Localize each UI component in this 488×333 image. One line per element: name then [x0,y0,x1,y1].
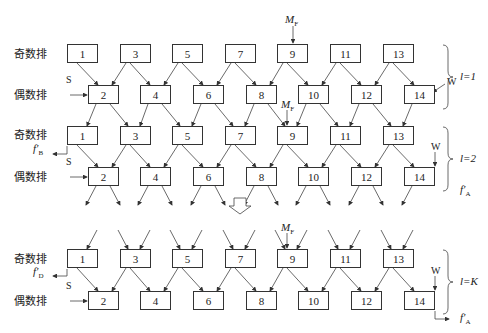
s-input-label: S [66,280,72,291]
even-tray-14: 14 [404,167,435,186]
even-row-label: 偶数排 [14,292,47,308]
even-tray-10: 10 [298,291,329,310]
even-tray-6: 6 [193,291,224,310]
stage-label: l=2 [460,152,476,164]
odd-tray-3: 3 [120,249,151,268]
mf-feed-label: MF [285,13,298,28]
even-tray-2: 2 [88,85,119,104]
even-tray-4: 4 [140,167,171,186]
fa-output-label: f′A [460,311,471,326]
even-tray-8: 8 [246,167,277,186]
odd-tray-13: 13 [383,249,414,268]
even-tray-4: 4 [140,291,171,310]
even-row-label: 偶数排 [14,86,47,102]
even-tray-12: 12 [351,291,382,310]
odd-tray-9: 9 [277,249,308,268]
even-tray-12: 12 [351,167,382,186]
even-tray-14: 14 [404,291,435,310]
odd-tray-5: 5 [172,44,203,63]
odd-tray-9: 9 [277,126,308,145]
even-tray-12: 12 [351,85,382,104]
odd-row-label: 奇数排 [14,45,47,61]
even-tray-2: 2 [88,291,119,310]
odd-tray-3: 3 [120,44,151,63]
odd-tray-7: 7 [225,126,256,145]
even-row-label: 偶数排 [14,168,47,184]
even-tray-14: 14 [404,85,435,104]
odd-tray-7: 7 [225,44,256,63]
odd-tray-1: 1 [67,126,98,145]
odd-tray-13: 13 [383,126,414,145]
odd-tray-11: 11 [330,126,361,145]
w-input-label: W [431,141,440,152]
even-tray-2: 2 [88,167,119,186]
odd-tray-11: 11 [330,44,361,63]
w-input-label: W [431,265,440,276]
odd-tray-7: 7 [225,249,256,268]
stage-label: l=K [460,275,478,287]
fa-output-label: f′A [460,183,471,198]
mf-feed-label: MF [281,98,294,113]
even-tray-6: 6 [193,167,224,186]
odd-row-label: 奇数排 [14,126,47,142]
mf-feed-label: MF [281,221,294,236]
odd-tray-5: 5 [172,249,203,268]
even-tray-8: 8 [246,291,277,310]
s-input-label: S [66,74,72,85]
odd-tray-3: 3 [120,126,151,145]
odd-tray-1: 1 [67,249,98,268]
even-tray-10: 10 [298,167,329,186]
odd-tray-11: 11 [330,249,361,268]
s-input-label: S [66,156,72,167]
odd-tray-5: 5 [172,126,203,145]
w-input-label: W [447,76,456,87]
odd-row-label: 奇数排 [14,250,47,266]
even-tray-4: 4 [140,85,171,104]
odd-tray-9: 9 [277,44,308,63]
odd-tray-1: 1 [67,44,98,63]
stage-label: l=1 [460,70,476,82]
odd-tray-13: 13 [383,44,414,63]
even-tray-6: 6 [193,85,224,104]
even-tray-8: 8 [246,85,277,104]
fb-output-label: f′B [33,142,43,157]
even-tray-10: 10 [298,85,329,104]
fd-output-label: f′D [33,265,44,280]
